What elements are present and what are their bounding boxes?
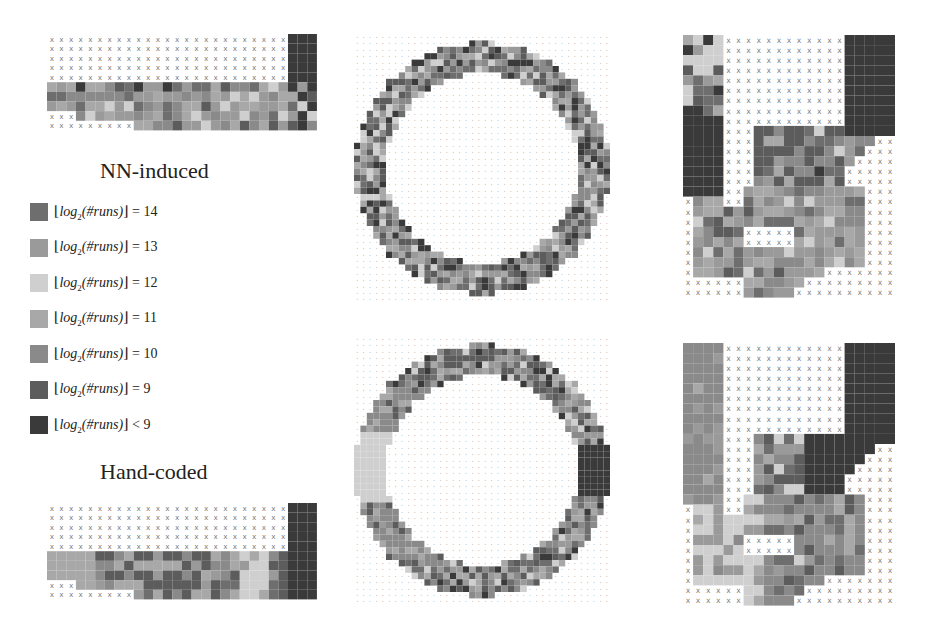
off-track-marker: · — [496, 207, 499, 213]
off-track-marker: · — [573, 40, 576, 46]
track-cell — [172, 121, 182, 131]
track-cell — [307, 63, 317, 73]
track-cell — [683, 86, 693, 96]
track-cell — [540, 66, 546, 72]
track-cell — [380, 220, 386, 226]
off-track-marker: x — [787, 238, 792, 247]
track-cell — [572, 220, 578, 226]
track-cell — [508, 60, 514, 66]
off-track-marker: · — [464, 381, 467, 387]
off-track-marker: · — [356, 34, 359, 40]
track-cell — [211, 92, 221, 102]
track-cell — [723, 535, 733, 545]
track-cell — [572, 200, 578, 206]
off-track-marker: · — [548, 188, 551, 194]
off-track-marker: · — [445, 124, 448, 130]
track-cell — [875, 96, 885, 106]
off-track-marker: x — [156, 35, 161, 44]
off-track-marker: · — [452, 207, 455, 213]
track-cell — [824, 166, 834, 176]
off-track-marker: x — [868, 167, 873, 176]
off-track-marker: x — [686, 556, 691, 565]
off-track-marker: x — [827, 86, 832, 95]
track-cell — [418, 264, 424, 270]
track-cell — [298, 63, 308, 73]
track-cell — [488, 579, 494, 585]
track-cell — [495, 566, 501, 572]
track-cell — [360, 464, 366, 470]
off-track-marker: · — [439, 226, 442, 232]
track-cell — [172, 561, 182, 571]
track-cell — [734, 535, 744, 545]
track-cell — [885, 116, 895, 126]
track-cell — [703, 176, 713, 186]
off-track-marker: · — [541, 284, 544, 290]
off-track-marker: · — [420, 586, 423, 592]
off-track-marker: x — [777, 86, 782, 95]
off-track-marker: · — [356, 130, 359, 136]
off-track-marker: · — [548, 336, 551, 342]
track-cell — [734, 555, 744, 565]
off-track-marker: · — [503, 502, 506, 508]
off-track-marker: · — [548, 355, 551, 361]
off-track-marker: · — [394, 438, 397, 444]
track-cell — [845, 207, 855, 217]
off-track-marker: x — [736, 364, 741, 373]
off-track-marker: x — [107, 35, 112, 44]
off-track-marker: · — [484, 252, 487, 258]
off-track-marker: · — [426, 149, 429, 155]
off-track-marker: · — [356, 111, 359, 117]
off-track-marker: x — [817, 66, 822, 75]
off-track-marker: x — [868, 455, 873, 464]
track-cell — [824, 237, 834, 247]
track-cell — [431, 355, 437, 361]
track-cell — [804, 525, 814, 535]
track-cell — [412, 362, 418, 368]
off-track-marker: · — [496, 464, 499, 470]
off-track-marker: · — [420, 200, 423, 206]
off-track-marker: · — [567, 290, 570, 296]
track-cell — [386, 220, 392, 226]
off-track-marker: · — [362, 342, 365, 348]
off-track-marker: · — [605, 554, 608, 560]
track-cell — [703, 166, 713, 176]
off-track-marker: · — [381, 566, 384, 572]
off-track-marker: x — [736, 127, 741, 136]
track-cell — [76, 580, 86, 590]
track-cell — [597, 438, 603, 444]
track-cell — [298, 111, 308, 121]
track-cell — [804, 187, 814, 197]
off-track-marker: · — [356, 264, 359, 270]
track-cell — [572, 232, 578, 238]
off-track-marker: · — [554, 464, 557, 470]
off-track-marker: · — [528, 226, 531, 232]
off-track-marker: · — [535, 598, 538, 604]
off-track-marker: · — [554, 277, 557, 283]
off-track-marker: · — [548, 162, 551, 168]
off-track-marker: · — [407, 426, 410, 432]
off-track-marker: · — [560, 290, 563, 296]
off-track-marker: · — [541, 168, 544, 174]
track-cell — [597, 451, 603, 457]
off-track-marker: · — [464, 290, 467, 296]
track-cell — [469, 579, 475, 585]
off-track-marker: · — [400, 162, 403, 168]
off-track-marker: x — [767, 66, 772, 75]
off-track-marker: · — [548, 470, 551, 476]
off-track-marker: · — [362, 515, 365, 521]
track-cell — [533, 573, 539, 579]
track-cell — [591, 458, 597, 464]
track-cell — [298, 101, 308, 111]
off-track-marker: · — [394, 470, 397, 476]
off-track-marker: · — [413, 290, 416, 296]
off-track-marker: · — [484, 483, 487, 489]
off-track-marker: · — [509, 598, 512, 604]
off-track-marker: · — [445, 496, 448, 502]
track-cell — [405, 534, 411, 540]
track-cell — [163, 580, 173, 590]
off-track-marker: · — [432, 34, 435, 40]
track-cell — [734, 257, 744, 267]
off-track-marker: x — [726, 177, 731, 186]
off-track-marker: · — [554, 349, 557, 355]
off-track-marker: · — [394, 34, 397, 40]
